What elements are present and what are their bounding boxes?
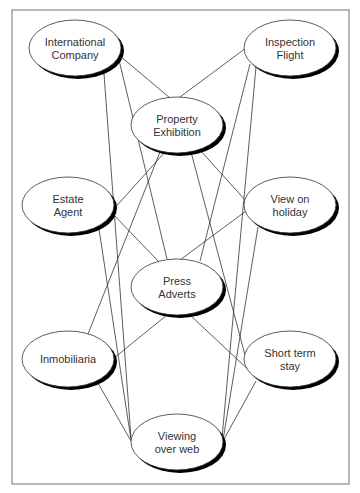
diagram-frame <box>12 10 349 484</box>
node-label: Viewingover web <box>155 430 200 455</box>
node-label: PressAdverts <box>158 275 196 300</box>
node-label-line: Exhibition <box>153 126 201 138</box>
node-label-line: View on <box>271 193 310 205</box>
node-label-line: Short term <box>264 347 315 359</box>
node-label: EstateAgent <box>52 193 83 218</box>
node-label: Inmobiliaria <box>40 353 97 365</box>
node-label-line: International <box>45 36 106 48</box>
node-label-line: Agent <box>54 206 83 218</box>
node-label-line: holiday <box>273 206 308 218</box>
node-label: PropertyExhibition <box>153 113 201 138</box>
node-label: View onholiday <box>271 193 310 218</box>
node-label-line: stay <box>280 360 301 372</box>
node-label-line: Inspection <box>265 36 315 48</box>
node-label-line: Flight <box>277 49 304 61</box>
node-label-line: over web <box>155 443 200 455</box>
node-label-line: Adverts <box>158 288 196 300</box>
node-label-line: Estate <box>52 193 83 205</box>
node-label: InternationalCompany <box>45 36 106 61</box>
node-label-line: Inmobiliaria <box>40 353 97 365</box>
network-diagram: InternationalCompanyInspectionFlightProp… <box>0 0 360 493</box>
node-label-line: Press <box>163 275 192 287</box>
node-label-line: Property <box>156 113 198 125</box>
node-label-line: Viewing <box>158 430 196 442</box>
node-label-line: Company <box>51 49 99 61</box>
